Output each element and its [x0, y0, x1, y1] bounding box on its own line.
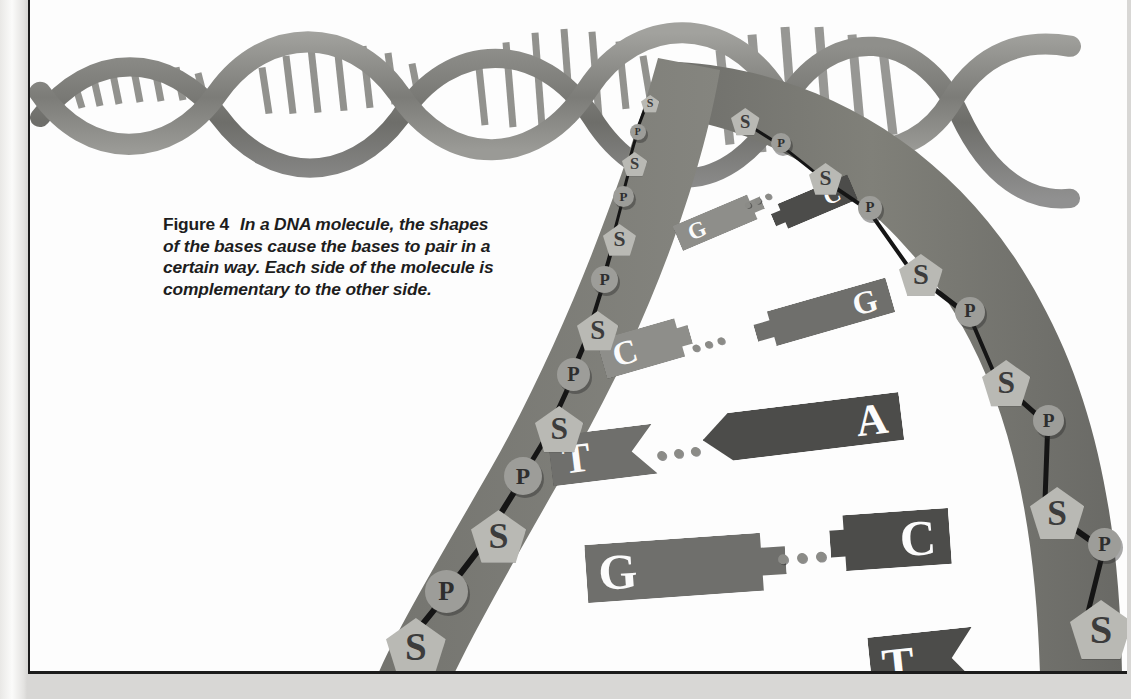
figure-page: GCCGTAGCT SPSPSPSPSPSPS SPSPSPSPSPS Figu…: [0, 0, 1131, 699]
left-backbone-phosphate-3: P: [613, 186, 634, 207]
left-backbone-phosphate-9: P: [504, 457, 542, 495]
left-backbone-phosphate-7: P: [557, 358, 590, 391]
hydrogen-bond-dot: [778, 554, 789, 565]
figure-label: Figure 4: [163, 214, 229, 234]
hydrogen-bond-dot: [673, 448, 683, 458]
hydrogen-bond-dot: [816, 551, 827, 562]
right-backbone-ribbon: [30, 0, 1127, 671]
base-letter: A: [853, 392, 891, 446]
dna-base-c-7: C: [828, 508, 952, 572]
right-backbone-phosphate-5: P: [955, 297, 985, 327]
hydrogen-bond-dot: [797, 553, 808, 564]
base-letter: G: [848, 281, 882, 323]
hydrogen-bond-dot: [657, 451, 667, 461]
hydrogen-bond-dot: [690, 446, 700, 456]
base-letter: T: [879, 635, 917, 671]
base-letter: G: [596, 541, 639, 602]
figure-caption: Figure 4In a DNA molecule, the shapes of…: [163, 214, 501, 300]
left-backbone-phosphate-1: P: [630, 124, 646, 140]
right-backbone-phosphate-3: P: [858, 196, 882, 220]
base-letter: C: [898, 508, 938, 568]
figure-frame: GCCGTAGCT SPSPSPSPSPSPS SPSPSPSPSPS Figu…: [28, 0, 1127, 674]
left-backbone-phosphate-11: P: [425, 570, 468, 613]
